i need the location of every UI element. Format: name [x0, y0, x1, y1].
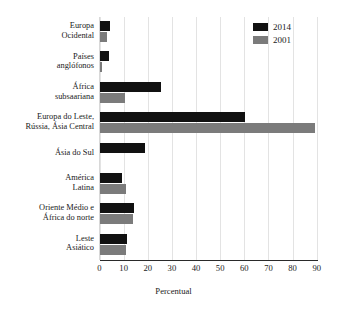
x-tick-label: 70	[264, 263, 273, 273]
category-label-line: subsaariana	[0, 92, 94, 102]
x-tick-label: 80	[288, 263, 297, 273]
category-label: Paísesanglófonos	[0, 52, 94, 71]
x-tick-label: 50	[216, 263, 225, 273]
bar-2001	[100, 123, 316, 133]
bar-2014	[100, 173, 122, 183]
category-labels: EuropaOcidentalPaísesanglófonosÁfricasub…	[0, 17, 94, 260]
category-label-line: Ocidental	[0, 31, 94, 41]
category-label-line: Países	[0, 52, 94, 62]
legend-label: 2014	[273, 23, 291, 32]
plot-area	[100, 17, 317, 260]
x-axis-line	[100, 260, 318, 261]
bar-2001	[100, 184, 127, 194]
x-tick-label: 0	[97, 263, 101, 273]
x-tick-label: 10	[119, 263, 128, 273]
bar-group	[100, 140, 317, 170]
category-label-line: Ásia do Sul	[0, 148, 94, 158]
bar-group	[100, 109, 317, 139]
category-label-line: Leste	[0, 234, 94, 244]
bar-chart: EuropaOcidentalPaísesanglófonosÁfricasub…	[0, 0, 347, 313]
category-label: LesteAsiático	[0, 234, 94, 253]
bar-2001	[100, 32, 107, 42]
gridline	[317, 17, 318, 260]
x-tick-label: 60	[240, 263, 249, 273]
category-label: AméricaLatina	[0, 173, 94, 192]
category-label: Europa do Leste,Rússia, Ásia Central	[0, 112, 94, 131]
bar-2014	[100, 112, 246, 122]
x-tick-label: 30	[168, 263, 177, 273]
category-label-line: Asiático	[0, 243, 94, 253]
legend-label: 2001	[273, 36, 291, 45]
bar-group	[100, 79, 317, 109]
bar-2014	[100, 82, 161, 92]
bar-2014	[100, 203, 135, 213]
bar-2001	[100, 245, 127, 255]
category-label: Áfricasubsaariana	[0, 82, 94, 101]
bar-group	[100, 48, 317, 78]
bar-2014	[100, 143, 145, 153]
x-tick-label: 20	[143, 263, 152, 273]
bar-group	[100, 170, 317, 200]
legend-item: 2001	[253, 35, 313, 45]
x-axis-title: Percentual	[0, 286, 347, 296]
x-tick-label: 90	[312, 263, 321, 273]
category-label-line: América	[0, 173, 94, 183]
legend-swatch	[253, 23, 268, 31]
bar-group	[100, 200, 317, 230]
x-tick-label: 40	[192, 263, 201, 273]
category-label-line: África	[0, 82, 94, 92]
category-label-line: Europa	[0, 21, 94, 31]
bar-rows	[100, 17, 317, 260]
category-label-line: anglófonos	[0, 61, 94, 71]
category-label-line: Europa do Leste,	[0, 112, 94, 122]
category-label: Oriente Médio eÁfrica do norte	[0, 203, 94, 222]
legend-item: 2014	[253, 22, 313, 32]
category-label-line: Oriente Médio e	[0, 203, 94, 213]
bar-2001	[100, 93, 125, 103]
category-label: Ásia do Sul	[0, 148, 94, 158]
bar-2014	[100, 21, 110, 31]
category-label-line: Latina	[0, 183, 94, 193]
category-label-line: África do norte	[0, 213, 94, 223]
category-label: EuropaOcidental	[0, 21, 94, 40]
bar-group	[100, 231, 317, 261]
legend: 20142001	[253, 22, 313, 48]
bar-2001	[100, 214, 133, 224]
bar-2014	[100, 51, 110, 61]
bar-2014	[100, 234, 128, 244]
x-axis-tick-labels: 0102030405060708090	[0, 263, 347, 277]
category-label-line: Rússia, Ásia Central	[0, 122, 94, 132]
legend-swatch	[253, 36, 268, 44]
y-axis-line	[99, 17, 100, 260]
